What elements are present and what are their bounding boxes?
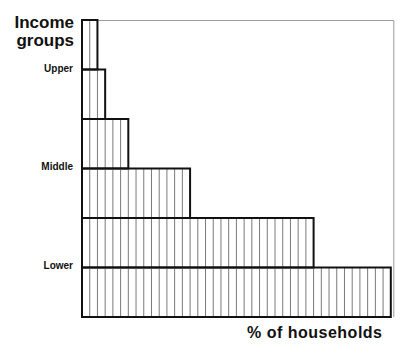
bars	[82, 20, 391, 317]
bar	[82, 218, 314, 268]
bar	[82, 20, 97, 70]
bar	[82, 70, 105, 120]
chart-plot-area	[0, 0, 403, 347]
bar	[82, 169, 190, 219]
bar	[82, 268, 391, 318]
bar	[82, 119, 128, 169]
x-axis-title: % of households	[247, 324, 383, 342]
